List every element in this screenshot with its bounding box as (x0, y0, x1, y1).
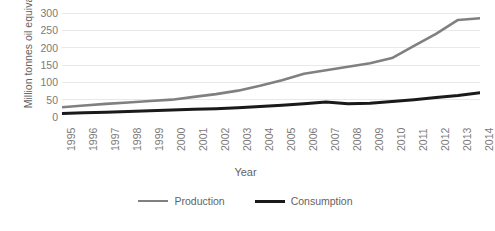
x-tick-label: 1999 (154, 128, 165, 151)
x-tick-label: 2014 (484, 128, 495, 151)
legend-label: Consumption (291, 196, 353, 207)
x-tick-label: 1996 (88, 128, 99, 151)
x-tick-label: 2011 (418, 128, 429, 151)
x-axis-title: Year (0, 166, 491, 178)
x-tick-label: 2008 (352, 128, 363, 151)
legend-label: Production (174, 196, 224, 207)
legend-item-production[interactable]: Production (138, 196, 224, 207)
chart-legend: ProductionConsumption (0, 196, 491, 207)
legend-line-swatch (255, 200, 285, 203)
x-tick-label: 2009 (374, 128, 385, 151)
x-tick-label: 2013 (462, 128, 473, 151)
x-tick-label: 2001 (198, 128, 209, 151)
x-tick-label: 2003 (242, 128, 253, 151)
x-tick-label: 2006 (308, 128, 319, 151)
x-tick-label: 2004 (264, 128, 275, 151)
legend-line-swatch (138, 200, 168, 202)
x-tick-label: 2002 (220, 128, 231, 151)
x-tick-label: 2005 (286, 128, 297, 151)
x-tick-label: 2000 (176, 128, 187, 151)
x-tick-label: 2012 (440, 128, 451, 151)
x-tick-label: 1995 (66, 128, 77, 151)
x-tick-label: 1998 (132, 128, 143, 151)
x-tick-label: 2010 (396, 128, 407, 151)
legend-item-consumption[interactable]: Consumption (255, 196, 353, 207)
x-tick-label: 1997 (110, 128, 121, 151)
x-tick-label: 2007 (330, 128, 341, 151)
